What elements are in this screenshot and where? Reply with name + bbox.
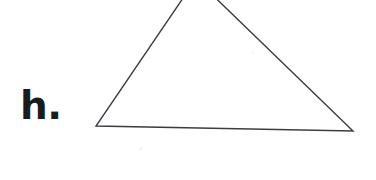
item-label: h. — [20, 86, 62, 126]
scan-speck-1 — [139, 147, 142, 150]
figure-page: h. — [0, 0, 376, 180]
scan-speck-2 — [252, 52, 254, 54]
triangle-shape — [96, 0, 353, 131]
